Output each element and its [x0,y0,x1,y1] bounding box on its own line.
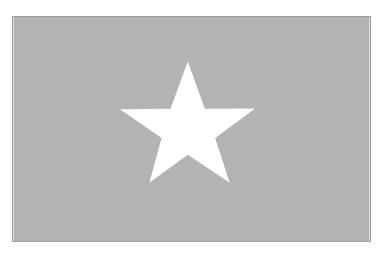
flag [12,16,371,242]
flag-graphic [13,17,370,241]
